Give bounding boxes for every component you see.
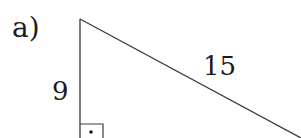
hypotenuse <box>80 19 301 138</box>
triangle-diagram <box>0 0 301 138</box>
right-angle-marker-icon <box>80 124 103 138</box>
problem-label: a) <box>12 14 40 42</box>
hypotenuse-length-label: 15 <box>203 53 236 79</box>
vertical-leg-length-label: 9 <box>52 78 69 104</box>
